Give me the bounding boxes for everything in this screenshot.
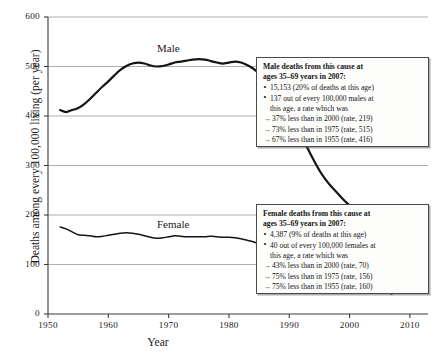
callout-item: 4,387 (9% of deaths at this age): [263, 230, 423, 240]
x-tick-label: 1950: [28, 320, 68, 330]
callout-item: 137 out of every 100,000 males atthis ag…: [263, 94, 423, 114]
series-label-male: Male: [157, 42, 180, 54]
chart-plot-area: [0, 0, 436, 363]
y-tick-label: 0: [6, 308, 40, 318]
callout-heading-line2: ages 35–69 years in 2007:: [263, 219, 346, 228]
callout-item-text-cont: this age, a rate which was: [270, 251, 423, 261]
callout-item-text: 37% less than in 2000 (rate, 219): [272, 114, 373, 123]
callout-item: 75% less than in 1955 (rate, 160): [263, 282, 423, 292]
callout-item-text: 43% less than in 2000 (rate, 70): [272, 261, 369, 270]
callout-item-text: 67% less than in 1955 (rate, 416): [272, 135, 373, 144]
callout-item-text: 75% less than in 1955 (rate, 160): [272, 282, 373, 291]
callout-item: 67% less than in 1955 (rate, 416): [263, 135, 423, 145]
annotation-callout-male: Male deaths from this cause at ages 35–6…: [256, 57, 429, 147]
annotation-callout-female: Female deaths from this cause at ages 35…: [256, 204, 429, 294]
callout-heading-line1: Male deaths from this cause at: [263, 62, 363, 71]
x-axis-title: Year: [48, 336, 268, 349]
x-tick-label: 1970: [149, 320, 189, 330]
x-tick-label: 1960: [88, 320, 128, 330]
callout-item-text: 4,387 (9% of deaths at this age): [270, 230, 366, 239]
callout-heading: Female deaths from this cause at ages 35…: [263, 209, 423, 229]
callout-item-text: 137 out of every 100,000 males at: [270, 94, 374, 103]
callout-item-text: 75% less than in 1975 (rate, 156): [272, 272, 373, 281]
callout-item: 75% less than in 1975 (rate, 156): [263, 272, 423, 282]
callout-item: 73% less than in 1975 (rate, 515): [263, 125, 423, 135]
y-axis-title: Deaths among every 100,000 living (per y…: [29, 42, 42, 272]
callout-heading-line2: ages 35–69 years in 2007:: [263, 72, 346, 81]
callout-item: 40 out of every 100,000 females atthis a…: [263, 241, 423, 261]
callout-heading: Male deaths from this cause at ages 35–6…: [263, 62, 423, 82]
callout-item: 37% less than in 2000 (rate, 219): [263, 114, 423, 124]
x-tick-label: 2000: [330, 320, 370, 330]
x-tick-label: 2010: [390, 320, 430, 330]
callout-heading-line1: Female deaths from this cause at: [263, 209, 370, 218]
x-tick-label: 1980: [209, 320, 249, 330]
callout-item-text: 15,153 (20% of deaths at this age): [270, 83, 374, 92]
callout-item-list: 4,387 (9% of deaths at this age) 40 out …: [263, 230, 423, 292]
callout-item: 15,153 (20% of deaths at this age): [263, 83, 423, 93]
callout-item: 43% less than in 2000 (rate, 70): [263, 261, 423, 271]
chart-figure: 0100200300400500600 19501960197019801990…: [0, 0, 436, 363]
callout-item-list: 15,153 (20% of deaths at this age) 137 o…: [263, 83, 423, 145]
x-tick-label: 1990: [269, 320, 309, 330]
callout-item-text: 40 out of every 100,000 females at: [270, 241, 376, 250]
callout-item-text-cont: this age, a rate which was: [270, 104, 423, 114]
callout-item-text: 73% less than in 1975 (rate, 515): [272, 125, 373, 134]
y-tick-label: 600: [6, 11, 40, 21]
series-label-female: Female: [157, 218, 189, 230]
